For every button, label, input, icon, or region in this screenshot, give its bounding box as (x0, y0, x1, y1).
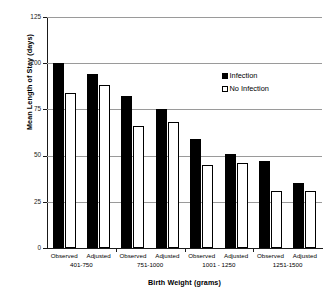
bar-chart-figure: Mean Length of Stay (days) 0255075100125… (0, 0, 335, 296)
y-tick-label-25: 25 (17, 199, 41, 205)
bar-no-infection-3-0 (271, 191, 282, 248)
legend-swatch-icon-0 (222, 73, 228, 79)
y-tick-label-0: 0 (17, 245, 41, 251)
bar-no-infection-0-1 (99, 85, 110, 248)
y-tick-mark-25 (43, 202, 47, 203)
gridline-100 (47, 63, 322, 64)
plot-area: 0255075100125 (47, 17, 322, 248)
bar-no-infection-3-1 (305, 191, 316, 248)
y-tick-label-100: 100 (17, 60, 41, 66)
bar-infection-0-1 (87, 74, 98, 248)
legend-item-infection: Infection (222, 70, 269, 81)
bar-infection-1-0 (121, 96, 132, 248)
y-axis-title: Mean Length of Stay (days) (23, 0, 37, 172)
chart-legend: InfectionNo Infection (222, 70, 269, 96)
bar-no-infection-1-1 (168, 122, 179, 248)
gridline-125 (47, 17, 322, 18)
bar-no-infection-1-0 (133, 126, 144, 248)
y-tick-mark-75 (43, 109, 47, 110)
x-axis-title: Birth Weight (grams) (47, 278, 322, 287)
legend-label-1: No Infection (230, 85, 269, 93)
x-sublabel-3-1: Adjusted (281, 252, 329, 260)
bar-infection-1-1 (156, 109, 167, 248)
bar-infection-3-1 (293, 183, 304, 248)
bar-infection-3-0 (259, 161, 270, 248)
bar-no-infection-2-1 (237, 163, 248, 248)
y-tick-mark-50 (43, 156, 47, 157)
legend-swatch-icon-1 (222, 86, 228, 92)
y-tick-label-125: 125 (17, 14, 41, 20)
legend-label-0: Infection (230, 72, 258, 80)
bar-no-infection-0-0 (65, 93, 76, 248)
y-tick-label-75: 75 (17, 106, 41, 112)
bar-no-infection-2-0 (202, 165, 213, 248)
y-tick-mark-0 (43, 248, 47, 249)
y-axis-line (47, 17, 48, 249)
y-tick-label-50: 50 (17, 152, 41, 158)
bar-infection-0-0 (53, 63, 64, 248)
x-group-label-3: 1251-1500 (248, 261, 328, 269)
bar-infection-2-0 (190, 139, 201, 248)
y-tick-mark-100 (43, 63, 47, 64)
y-tick-mark-125 (43, 17, 47, 18)
bar-infection-2-1 (225, 154, 236, 248)
legend-item-no-infection: No Infection (222, 83, 269, 94)
